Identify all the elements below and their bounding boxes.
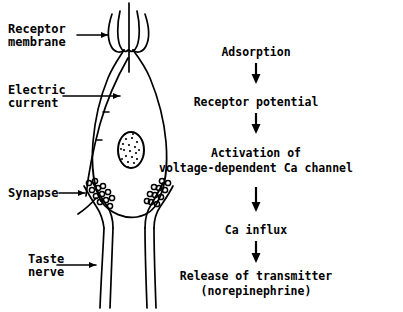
flow-step-receptor-potential: Receptor potential	[194, 96, 319, 109]
arrow-down-icon-1	[252, 63, 261, 84]
flow-step-activation-line2: voltage-dependent Ca channel	[159, 162, 353, 175]
label-electric-current: Electric current	[8, 84, 66, 110]
flow-step-activation-line1: Activation of	[211, 147, 301, 160]
label-taste-nerve: Taste nerve	[28, 253, 64, 279]
label-synapse: Synapse	[8, 187, 59, 200]
flow-step-adsorption: Adsorption	[221, 46, 290, 59]
figure-root: Receptor membrane Electric current Synap…	[0, 0, 403, 312]
label-receptor-membrane: Receptor membrane	[8, 23, 66, 49]
arrow-down-icon-2	[252, 113, 261, 134]
flow-step-ca-influx: Ca influx	[225, 224, 287, 237]
arrow-down-icon-3	[252, 187, 261, 212]
flow-step-release-line2: (norepinephrine)	[201, 285, 312, 298]
arrow-down-icon-4	[252, 241, 261, 263]
flow-step-release-line1: Release of transmitter	[180, 270, 332, 283]
